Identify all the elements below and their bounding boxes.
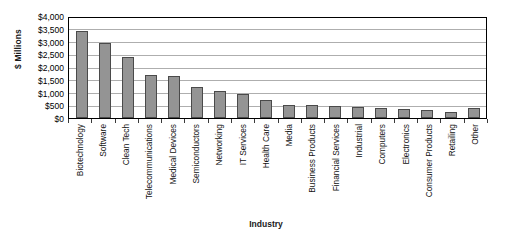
x-axis-category-slot: Electronics bbox=[394, 124, 417, 212]
bar[interactable] bbox=[352, 107, 364, 118]
bar-slot bbox=[301, 18, 324, 118]
x-axis-category-label: Semiconductors bbox=[192, 124, 201, 184]
x-axis-category-slot: Other bbox=[464, 124, 487, 212]
x-axis-category-labels: BiotechnologySoftwareClean TechTelecommu… bbox=[68, 124, 487, 212]
bar[interactable] bbox=[99, 43, 111, 118]
bar-slot bbox=[162, 18, 185, 118]
bar[interactable] bbox=[283, 105, 295, 118]
x-axis-category-slot: IT Services bbox=[231, 124, 254, 212]
bar[interactable] bbox=[445, 112, 457, 118]
y-axis-tick-label: $2,500 bbox=[38, 51, 64, 59]
x-axis-category-label: Telecommunications bbox=[145, 124, 154, 199]
bar-slot bbox=[324, 18, 347, 118]
bar-series bbox=[69, 18, 486, 118]
x-axis-category-slot: Clean Tech bbox=[115, 124, 138, 212]
x-axis-category-slot: Semiconductors bbox=[184, 124, 207, 212]
x-axis-category-slot: Financial Services bbox=[324, 124, 347, 212]
x-axis-category-slot: Health Care bbox=[254, 124, 277, 212]
y-axis-tick-label: $1,500 bbox=[38, 77, 64, 85]
y-axis-tick-label: $500 bbox=[45, 102, 64, 110]
x-axis-tick bbox=[417, 119, 418, 123]
x-axis-category-label: Media bbox=[285, 124, 294, 147]
x-axis-category-slot: Networking bbox=[208, 124, 231, 212]
bar-slot bbox=[93, 18, 116, 118]
bar-slot bbox=[393, 18, 416, 118]
x-axis-category-slot: Biotechnology bbox=[68, 124, 91, 212]
x-axis-tick bbox=[301, 119, 302, 123]
bar-slot bbox=[139, 18, 162, 118]
x-axis-tick bbox=[184, 119, 185, 123]
x-axis-tick bbox=[68, 119, 69, 123]
x-axis-category-slot: Business Products bbox=[301, 124, 324, 212]
x-axis-category-slot: Media bbox=[278, 124, 301, 212]
y-axis-tick-label: $4,000 bbox=[38, 13, 64, 21]
x-axis-category-label: Computers bbox=[378, 124, 387, 165]
bar[interactable] bbox=[421, 110, 433, 118]
x-axis-tick bbox=[440, 119, 441, 123]
bar[interactable] bbox=[237, 94, 249, 118]
bar[interactable] bbox=[306, 105, 318, 118]
bar-slot bbox=[231, 18, 254, 118]
bar-slot bbox=[116, 18, 139, 118]
x-axis-category-label: Industrial bbox=[354, 124, 363, 158]
x-axis-tick bbox=[278, 119, 279, 123]
y-axis-tick-label: $1,000 bbox=[38, 90, 64, 98]
bar[interactable] bbox=[329, 106, 341, 118]
y-axis-tick-label: $0 bbox=[55, 115, 64, 123]
bar-chart: $ Millions $4,000$3,500$3,000$2,500$2,00… bbox=[0, 0, 532, 245]
x-axis-tick bbox=[347, 119, 348, 123]
bar[interactable] bbox=[398, 109, 410, 118]
x-axis-category-slot: Medical Devices bbox=[161, 124, 184, 212]
bar[interactable] bbox=[214, 91, 226, 118]
x-axis-tick bbox=[231, 119, 232, 123]
x-axis-category-label: Electronics bbox=[401, 124, 410, 165]
x-axis-category-label: Consumer Products bbox=[424, 124, 433, 197]
x-axis-tick bbox=[208, 119, 209, 123]
bar-slot bbox=[416, 18, 439, 118]
x-axis-tick bbox=[115, 119, 116, 123]
x-axis-category-slot: Consumer Products bbox=[417, 124, 440, 212]
bar[interactable] bbox=[122, 57, 134, 118]
x-axis-category-label: Medical Devices bbox=[168, 124, 177, 184]
bar[interactable] bbox=[375, 108, 387, 118]
bar-slot bbox=[370, 18, 393, 118]
bar-slot bbox=[462, 18, 485, 118]
x-axis-category-slot: Industrial bbox=[347, 124, 370, 212]
y-axis-tick-label: $2,000 bbox=[38, 64, 64, 72]
plot-area bbox=[68, 17, 487, 119]
x-axis-tick bbox=[487, 119, 488, 123]
x-axis-tick bbox=[161, 119, 162, 123]
x-axis-category-label: Networking bbox=[215, 124, 224, 166]
bar-slot bbox=[185, 18, 208, 118]
y-axis-tick-label: $3,000 bbox=[38, 39, 64, 47]
y-axis-tick-labels: $4,000$3,500$3,000$2,500$2,000$1,500$1,0… bbox=[24, 11, 66, 123]
bar-slot bbox=[70, 18, 93, 118]
bar-slot bbox=[278, 18, 301, 118]
x-axis-category-label: Biotechnology bbox=[75, 124, 84, 176]
bar[interactable] bbox=[168, 76, 180, 118]
x-axis-category-label: Financial Services bbox=[331, 124, 340, 191]
bar-slot bbox=[208, 18, 231, 118]
x-axis-tick bbox=[138, 119, 139, 123]
bar[interactable] bbox=[76, 31, 88, 118]
x-axis-title: Industry bbox=[0, 219, 532, 229]
bar[interactable] bbox=[468, 108, 480, 118]
bar[interactable] bbox=[191, 87, 203, 118]
y-axis-tick-label: $3,500 bbox=[38, 26, 64, 34]
bar-slot bbox=[255, 18, 278, 118]
x-axis-tick bbox=[91, 119, 92, 123]
x-axis-category-slot: Computers bbox=[371, 124, 394, 212]
bar-slot bbox=[439, 18, 462, 118]
x-axis-category-label: Other bbox=[471, 124, 480, 145]
x-axis-tick bbox=[464, 119, 465, 123]
x-axis-tick bbox=[394, 119, 395, 123]
x-axis-category-label: Software bbox=[98, 124, 107, 157]
x-axis-category-label: Health Care bbox=[261, 124, 270, 168]
x-axis-category-label: Business Products bbox=[308, 124, 317, 193]
x-axis-category-slot: Software bbox=[91, 124, 114, 212]
x-axis-category-slot: Telecommunications bbox=[138, 124, 161, 212]
x-axis-category-label: Clean Tech bbox=[122, 124, 131, 165]
bar[interactable] bbox=[145, 75, 157, 118]
bar[interactable] bbox=[260, 100, 272, 118]
bar-slot bbox=[347, 18, 370, 118]
